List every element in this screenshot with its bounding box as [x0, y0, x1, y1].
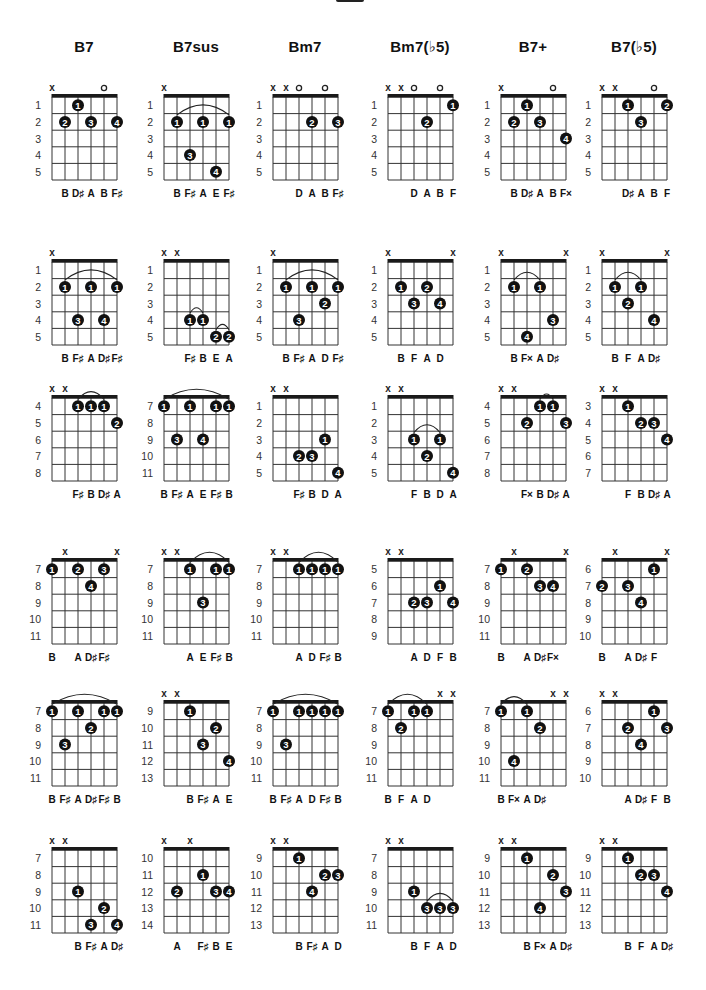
finger-dot: 3 [197, 597, 209, 609]
fret-number: 5 [484, 331, 490, 343]
fret-number: 8 [484, 467, 490, 479]
muted-string-icon: x [161, 546, 167, 557]
muted-string-icon: x [270, 82, 276, 93]
finger-dot: 1 [306, 281, 318, 293]
svg-text:3: 3 [174, 434, 179, 445]
muted-string-icon: x [398, 835, 404, 846]
note-name: A [410, 794, 417, 805]
fret-number: 9 [147, 597, 153, 609]
note-name: D♯ [533, 794, 545, 805]
svg-text:1: 1 [187, 315, 193, 326]
svg-text:2: 2 [398, 723, 403, 734]
svg-text:2: 2 [625, 723, 630, 734]
svg-text:1: 1 [335, 564, 341, 575]
svg-text:3: 3 [437, 903, 442, 914]
svg-text:1: 1 [101, 706, 107, 717]
finger-dot: 2 [319, 298, 331, 310]
fret-number: 3 [256, 298, 262, 310]
finger-dot: 1 [382, 705, 394, 717]
muted-string-icon: x [450, 688, 456, 699]
finger-dot: 2 [596, 580, 608, 592]
fret-number: 2 [256, 417, 262, 429]
finger-dot: 3 [622, 580, 634, 592]
fret-number: 9 [585, 852, 591, 864]
fret-number: 3 [35, 133, 41, 145]
finger-dot: 4 [306, 886, 318, 898]
svg-text:3: 3 [88, 919, 93, 930]
fret-number: 13 [579, 919, 591, 931]
note-name: F [650, 794, 656, 805]
svg-text:2: 2 [174, 886, 179, 897]
fret-number: 10 [478, 613, 490, 625]
muted-string-icon: x [270, 247, 276, 258]
muted-string-icon: x [283, 82, 289, 93]
fret-number: 1 [35, 264, 41, 276]
svg-text:1: 1 [49, 564, 55, 575]
open-string-icon [550, 85, 555, 90]
nut-bar [387, 259, 453, 263]
svg-text:1: 1 [309, 282, 315, 293]
fret-number: 7 [371, 597, 377, 609]
finger-dot: 3 [648, 869, 660, 881]
muted-string-icon: x [599, 383, 605, 394]
column-title: Bm7(♭5) [365, 38, 475, 56]
finger-dot: 4 [635, 739, 647, 751]
nut-bar [163, 395, 229, 399]
note-name: B [536, 489, 543, 500]
note-name: A [334, 489, 341, 500]
muted-string-icon: x [270, 835, 276, 846]
column-title: B7 [29, 38, 139, 55]
muted-string-icon: x [385, 835, 391, 846]
note-name: F [624, 353, 630, 364]
finger-dot: 1 [622, 99, 634, 111]
note-name: E [225, 794, 232, 805]
note-name: D [449, 941, 456, 952]
finger-dot: 1 [111, 281, 123, 293]
muted-string-icon: x [498, 247, 504, 258]
svg-text:1: 1 [524, 100, 530, 111]
svg-text:1: 1 [213, 401, 219, 412]
svg-text:1: 1 [309, 564, 315, 575]
svg-text:2: 2 [75, 564, 80, 575]
note-name: F♯ [210, 489, 221, 500]
fret-number: 11 [142, 467, 153, 479]
svg-text:4: 4 [511, 756, 517, 767]
svg-text:2: 2 [664, 100, 669, 111]
note-name: F♯ [332, 188, 343, 199]
fret-number: 4 [147, 149, 153, 161]
muted-string-icon: x [270, 546, 276, 557]
svg-text:3: 3 [424, 903, 429, 914]
chord-diagram: 7891011xx1111ADF♯B [239, 545, 359, 665]
svg-text:2: 2 [524, 418, 529, 429]
finger-dot: 3 [648, 417, 660, 429]
svg-text:1: 1 [625, 401, 631, 412]
svg-text:1: 1 [296, 706, 302, 717]
note-name: A [624, 652, 631, 663]
svg-text:1: 1 [612, 282, 618, 293]
note-name: F [650, 652, 656, 663]
fret-number: 10 [141, 613, 153, 625]
fret-number: 12 [478, 902, 490, 914]
nut-bar [387, 558, 453, 562]
fret-number: 3 [585, 133, 591, 145]
note-name: F♯ [184, 188, 195, 199]
muted-string-icon: x [283, 835, 289, 846]
note-name: F♯ [332, 353, 343, 364]
muted-string-icon: x [49, 82, 55, 93]
note-name: B [308, 489, 315, 500]
muted-string-icon: x [612, 82, 618, 93]
svg-text:2: 2 [101, 903, 106, 914]
note-name: A [637, 353, 644, 364]
fret-number: 5 [484, 417, 490, 429]
fret-number: 8 [256, 722, 262, 734]
nut-bar [500, 259, 566, 263]
muted-string-icon: x [599, 82, 605, 93]
nut-bar [500, 700, 566, 704]
fret-number: 13 [478, 919, 490, 931]
note-name: D♯ [546, 353, 558, 364]
fret-number: 5 [256, 467, 262, 479]
finger-dot: 1 [197, 116, 209, 128]
nut-bar [272, 395, 338, 399]
fret-number: 9 [371, 886, 377, 898]
finger-dot: 1 [622, 852, 634, 864]
